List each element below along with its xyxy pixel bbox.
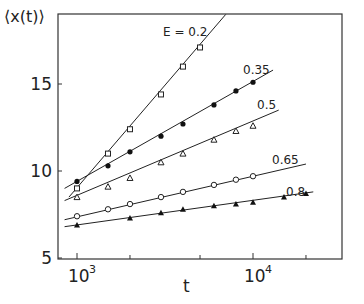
series-label: 0.35 xyxy=(243,63,270,77)
marker-open-circle xyxy=(127,201,132,206)
y-tick-label: 5 xyxy=(41,248,52,268)
marker-open-triangle xyxy=(250,123,256,128)
marker-open-circle xyxy=(233,177,238,182)
y-axis-label: ⟨x(t)⟩ xyxy=(4,7,45,26)
marker-filled-circle xyxy=(180,121,185,126)
marker-filled-circle xyxy=(211,102,216,107)
marker-open-square xyxy=(158,92,163,97)
marker-open-circle xyxy=(211,182,216,187)
marker-filled-circle xyxy=(74,179,79,184)
fit-line xyxy=(65,70,273,188)
marker-filled-triangle xyxy=(233,201,239,207)
marker-filled-triangle xyxy=(180,206,186,212)
fit-line xyxy=(69,14,226,197)
y-tick-label: 15 xyxy=(30,74,52,94)
marker-open-square xyxy=(198,45,203,50)
x-tick-exponent: 4 xyxy=(265,263,272,276)
marker-open-circle xyxy=(74,214,79,219)
x-tick-label: 10 xyxy=(244,266,266,286)
marker-open-circle xyxy=(158,194,163,199)
x-axis-label: t xyxy=(183,276,190,296)
marker-open-square xyxy=(105,151,110,156)
marker-open-triangle xyxy=(211,137,217,143)
series-group xyxy=(65,14,314,227)
marker-filled-circle xyxy=(233,88,238,93)
series-label: 0.5 xyxy=(257,98,276,112)
marker-filled-circle xyxy=(105,163,110,168)
marker-open-circle xyxy=(250,174,255,179)
marker-open-circle xyxy=(180,189,185,194)
fit-line xyxy=(65,110,279,200)
fit-line xyxy=(65,192,314,227)
marker-open-triangle xyxy=(127,175,133,181)
marker-open-square xyxy=(180,64,185,69)
x-tick-exponent: 3 xyxy=(89,263,96,276)
series-label: E = 0.2 xyxy=(163,25,207,39)
series-label: 0.8 xyxy=(286,185,305,199)
marker-open-triangle xyxy=(105,184,111,190)
marker-filled-circle xyxy=(158,134,163,139)
plot-frame xyxy=(58,14,342,259)
chart: 51015103104⟨x(t)⟩tE = 0.20.350.50.650.8 xyxy=(0,0,364,304)
marker-open-square xyxy=(75,186,80,191)
marker-open-triangle xyxy=(158,159,164,165)
series-label: 0.65 xyxy=(272,153,299,167)
y-tick-label: 10 xyxy=(30,161,52,181)
marker-open-square xyxy=(127,127,132,132)
x-tick-label: 10 xyxy=(68,266,90,286)
marker-open-circle xyxy=(105,207,110,212)
marker-filled-circle xyxy=(250,80,255,85)
marker-filled-circle xyxy=(127,149,132,154)
